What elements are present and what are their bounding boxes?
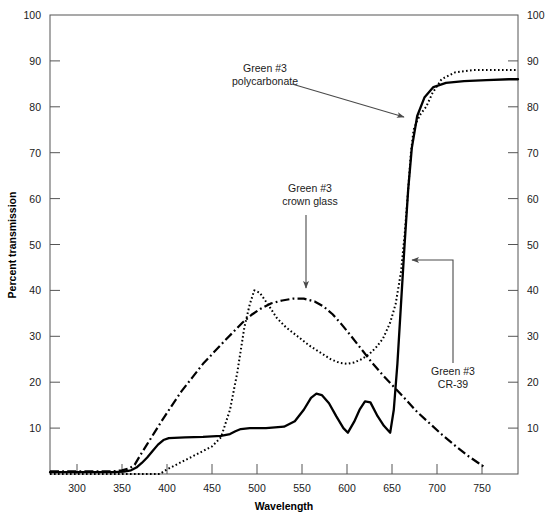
x-tick-label: 350 xyxy=(113,482,131,494)
y-tick-label-right: 80 xyxy=(527,101,539,113)
y-tick-label-right: 10 xyxy=(527,422,539,434)
x-tick-label: 700 xyxy=(428,482,446,494)
y-tick-label-left: 80 xyxy=(29,101,41,113)
annotation-line: polycarbonate xyxy=(232,75,298,87)
y-tick-label-right: 50 xyxy=(527,239,539,251)
transmission-chart: 102030405060708090100 102030405060708090… xyxy=(0,0,547,518)
x-tick-label: 750 xyxy=(473,482,491,494)
y-tick-label-left: 70 xyxy=(29,147,41,159)
annotation-line: Green #3 xyxy=(243,62,287,74)
annotation-line: crown glass xyxy=(282,195,337,207)
y-tick-label-right: 30 xyxy=(527,330,539,342)
y-tick-label-left: 30 xyxy=(29,330,41,342)
x-tick-label: 500 xyxy=(248,482,266,494)
x-tick-label: 550 xyxy=(293,482,311,494)
y-tick-label-left: 60 xyxy=(29,193,41,205)
y-tick-label-left: 10 xyxy=(29,422,41,434)
y-axis-title: Percent transmission xyxy=(6,192,18,299)
y-tick-label-right: 70 xyxy=(527,147,539,159)
y-tick-label-left: 20 xyxy=(29,376,41,388)
y-tick-label-right: 90 xyxy=(527,55,539,67)
y-tick-label-right: 40 xyxy=(527,284,539,296)
x-tick-label: 600 xyxy=(338,482,356,494)
annotation-line: Green #3 xyxy=(288,182,332,194)
y-tick-label-left: 90 xyxy=(29,55,41,67)
annotation-line: CR-39 xyxy=(438,378,469,390)
y-tick-label-left: 100 xyxy=(23,9,41,21)
y-tick-label-left: 40 xyxy=(29,284,41,296)
x-tick-label: 450 xyxy=(203,482,221,494)
annotation-label-crown-glass: Green #3crown glass xyxy=(282,182,337,207)
chart-canvas: 102030405060708090100 102030405060708090… xyxy=(0,0,547,518)
x-axis-title: Wavelength xyxy=(255,500,314,512)
annotation-line: Green #3 xyxy=(431,365,475,377)
y-tick-label-right: 100 xyxy=(527,9,545,21)
y-tick-label-right: 20 xyxy=(527,376,539,388)
y-tick-label-left: 50 xyxy=(29,239,41,251)
x-tick-label: 650 xyxy=(383,482,401,494)
y-tick-label-right: 60 xyxy=(527,193,539,205)
x-tick-label: 400 xyxy=(158,482,176,494)
x-tick-label: 300 xyxy=(68,482,86,494)
